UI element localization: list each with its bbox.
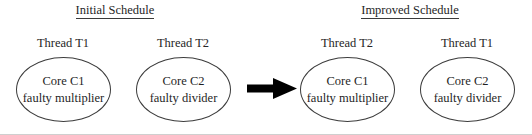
- core-name-improved-1: Core C1: [326, 73, 368, 89]
- core-node-improved-2: Core C2 faulty divider: [420, 57, 515, 122]
- core-name-initial-1: Core C1: [42, 73, 84, 89]
- section-title-initial: Initial Schedule: [40, 3, 190, 17]
- core-fault-initial-2: faulty divider: [150, 90, 218, 106]
- right-arrow-icon: [247, 78, 297, 99]
- section-title-improved-text: Improved Schedule: [361, 3, 459, 19]
- schedule-transformation-diagram: Initial Schedule Improved Schedule Threa…: [0, 0, 532, 135]
- section-title-improved: Improved Schedule: [330, 3, 490, 17]
- core-node-initial-1: Core C1 faulty multiplier: [16, 57, 111, 122]
- core-fault-improved-1: faulty multiplier: [307, 90, 389, 106]
- core-fault-initial-1: faulty multiplier: [23, 90, 105, 106]
- thread-label-improved-2: Thread T1: [417, 36, 517, 51]
- core-name-improved-2: Core C2: [446, 73, 488, 89]
- core-fault-improved-2: faulty divider: [434, 90, 502, 106]
- core-name-initial-2: Core C2: [162, 73, 204, 89]
- core-node-initial-2: Core C2 faulty divider: [136, 57, 231, 122]
- baseline-divider: [0, 134, 532, 135]
- thread-label-initial-1: Thread T1: [13, 36, 113, 51]
- core-node-improved-1: Core C1 faulty multiplier: [300, 57, 395, 122]
- thread-label-improved-1: Thread T2: [297, 36, 397, 51]
- thread-label-initial-2: Thread T2: [133, 36, 233, 51]
- section-title-initial-text: Initial Schedule: [76, 3, 155, 19]
